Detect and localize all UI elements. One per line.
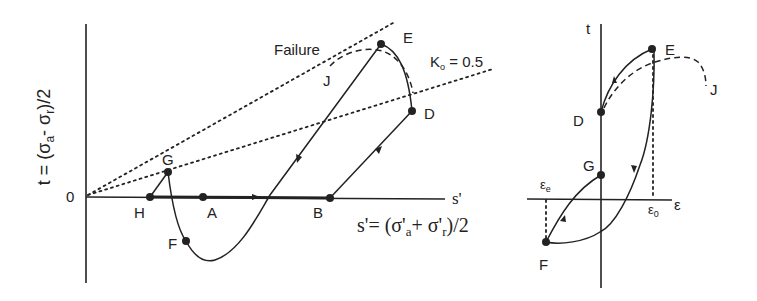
- label-h: H: [134, 204, 145, 221]
- path-f-to-g: [546, 175, 601, 242]
- arrow-icon: [631, 165, 637, 173]
- path-b-to-d: [330, 111, 412, 198]
- path-g-f-e: [168, 44, 381, 261]
- strain-axis: [527, 199, 672, 200]
- t-axis-label: t: [586, 20, 591, 37]
- path-e-to-d: [381, 44, 412, 111]
- label-j: J: [323, 72, 331, 89]
- label-g-right: G: [583, 157, 595, 174]
- eps-0-label: ε0: [648, 202, 659, 219]
- label-f-right: F: [539, 256, 548, 273]
- label-j-right: J: [710, 81, 718, 98]
- label-d-right: D: [573, 112, 584, 129]
- point-f-right: [542, 238, 550, 246]
- label-f: F: [168, 235, 177, 252]
- point-f: [182, 237, 190, 245]
- origin-label: 0: [66, 188, 74, 205]
- k0-label: Ko = 0.5: [430, 53, 483, 72]
- point-d: [408, 107, 416, 115]
- eps-e-label: εe: [540, 177, 551, 194]
- failure-label: Failure: [274, 41, 320, 58]
- label-b: B: [313, 204, 323, 221]
- y-axis-label: t = (σa- σr)/2: [34, 89, 57, 185]
- point-g-right: [597, 171, 605, 179]
- x-axis-label: s'= (σ'a+ σ'r)/2: [357, 214, 469, 239]
- label-g: G: [162, 151, 174, 168]
- stress-strain-plot: t ε εe ε0 E D G F J: [527, 20, 718, 288]
- k0-line: [88, 69, 493, 195]
- label-d: D: [424, 105, 435, 122]
- failure-line: [88, 23, 393, 195]
- point-b: [326, 194, 334, 202]
- path-h-to-b: [150, 197, 330, 198]
- s-prime-axis-symbol: s': [452, 189, 462, 208]
- point-d-right: [597, 108, 605, 116]
- point-h: [146, 193, 154, 201]
- label-e-right: E: [665, 41, 675, 58]
- point-e-right: [648, 45, 656, 53]
- strain-axis-label: ε: [674, 196, 681, 213]
- point-e: [377, 40, 385, 48]
- label-e: E: [403, 29, 413, 46]
- point-a: [199, 193, 207, 201]
- point-g: [164, 168, 172, 176]
- stress-path-plot: t = (σa- σr)/2 0 s' s'= (σ'a+ σ'r)/2 Fai…: [34, 23, 493, 283]
- path-j-dashed-right: [604, 57, 706, 108]
- path-d-to-e: [601, 49, 652, 112]
- label-a: A: [207, 204, 217, 221]
- stress-path-figure: t = (σa- σr)/2 0 s' s'= (σ'a+ σ'r)/2 Fai…: [0, 0, 757, 301]
